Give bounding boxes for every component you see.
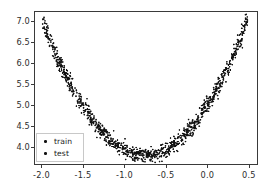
y-tick-mark (31, 147, 34, 148)
x-tick-label: 0.5 (242, 170, 256, 180)
x-tick-mark (41, 165, 42, 168)
legend-item-train: train (40, 136, 80, 147)
chart-figure: 4.04.55.05.56.06.57.0 -2.0-1.5-1.0-0.50.… (0, 0, 272, 187)
x-tick-label: -0.5 (158, 170, 175, 180)
x-tick-label: -1.0 (116, 170, 133, 180)
y-tick-label: 5.5 (2, 79, 30, 89)
x-tick-label: 0.0 (201, 170, 215, 180)
legend-label-test: test (54, 149, 69, 158)
y-tick-mark (31, 21, 34, 22)
x-tick-mark (249, 165, 250, 168)
y-tick-mark (31, 84, 34, 85)
x-tick-mark (166, 165, 167, 168)
x-tick-mark (124, 165, 125, 168)
x-tick-mark (83, 165, 84, 168)
legend-marker-test-icon (40, 152, 51, 155)
y-tick-label: 6.5 (2, 37, 30, 47)
y-tick-label: 5.0 (2, 100, 30, 110)
chart-legend: train test (36, 133, 84, 162)
legend-marker-train-icon (40, 140, 51, 143)
y-tick-label: 7.0 (2, 16, 30, 26)
x-tick-mark (207, 165, 208, 168)
x-tick-label: -1.5 (75, 170, 92, 180)
legend-label-train: train (54, 137, 72, 146)
y-tick-label: 4.0 (2, 142, 30, 152)
y-tick-mark (31, 42, 34, 43)
y-tick-mark (31, 105, 34, 106)
y-tick-label: 4.5 (2, 121, 30, 131)
y-tick-mark (31, 126, 34, 127)
y-tick-mark (31, 63, 34, 64)
x-tick-label: -2.0 (33, 170, 50, 180)
legend-item-test: test (40, 149, 80, 160)
y-tick-label: 6.0 (2, 58, 30, 68)
